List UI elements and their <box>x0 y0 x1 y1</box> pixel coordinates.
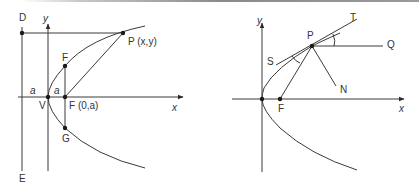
label-tangent-t: T <box>350 12 356 23</box>
label-distance-left: a <box>30 85 36 96</box>
point-vertex <box>46 95 50 99</box>
tangent-line <box>276 19 357 65</box>
normal-line <box>312 46 336 86</box>
label-x-axis-right: x <box>398 103 405 114</box>
label-x-axis: x <box>171 102 178 113</box>
label-e: E <box>19 173 26 184</box>
label-point-p-right: P <box>307 30 314 41</box>
label-point-p: P (x,y) <box>128 36 157 47</box>
label-latus-bottom: G <box>62 133 70 144</box>
label-focus: F (0,a) <box>69 100 98 111</box>
label-d: D <box>19 12 26 23</box>
parabola-upper-tail <box>312 33 340 46</box>
point-focus-right <box>278 97 282 101</box>
right-diagram <box>232 19 404 172</box>
label-tangent-s: S <box>267 56 274 67</box>
point-d <box>20 31 24 35</box>
right-points <box>260 44 314 101</box>
focal-radius <box>65 33 123 97</box>
angle-arc-s <box>292 56 300 63</box>
label-focus-right: F <box>278 103 284 114</box>
label-y-axis: y <box>42 13 49 24</box>
diagram-canvas: D E y x V F (0,a) F G P (x,y) a a <box>0 0 419 189</box>
point-vertex-right <box>260 97 264 101</box>
left-points <box>20 31 125 130</box>
label-q: Q <box>387 39 395 50</box>
top-rule <box>20 0 419 2</box>
label-y-axis-right: y <box>256 15 263 26</box>
point-latus-top <box>63 64 67 68</box>
label-vertex: V <box>39 100 46 111</box>
point-p <box>121 31 125 35</box>
label-n: N <box>340 84 347 95</box>
point-p-right <box>310 44 314 48</box>
label-distance-right: a <box>54 85 60 96</box>
left-diagram <box>18 24 183 171</box>
label-latus-top: F <box>62 52 68 63</box>
left-labels: D E y x V F (0,a) F G P (x,y) a a <box>19 12 178 184</box>
point-latus-bottom <box>63 126 67 130</box>
point-focus <box>63 95 67 99</box>
